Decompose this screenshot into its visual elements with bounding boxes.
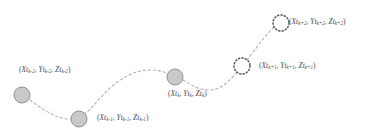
observed-position-marker-t_k_minus_1: [71, 111, 87, 127]
predicted-position-marker-t_k_plus_1: [234, 58, 250, 74]
trajectory-figure: (Xtk-2, Ytk-2, Ztk-2)(Xtk-1, Ytk-1, Ztk-…: [0, 0, 368, 134]
observed-position-marker-t_k_minus_2: [14, 87, 30, 103]
coordinate-label-t_k_minus_2: (Xtk-2, Ytk-2, Ztk-2): [19, 66, 70, 74]
coordinate-label-t_k_plus_1: (Xtk+1, Ytk+1, Ztk+1): [259, 62, 316, 70]
coordinate-label-t_k_minus_1: (Xtk-1, Ytk-1, Ztk-1): [97, 114, 148, 122]
predicted-position-marker-t_k_plus_2: [273, 15, 289, 31]
observed-position-marker-t_k: [167, 69, 183, 85]
coordinate-label-t_k_plus_2: (Xtk+2, Ytk+2, Ztk+2): [289, 18, 346, 26]
coordinate-label-t_k: (Xtk, Ytk, Ztk): [168, 90, 207, 98]
